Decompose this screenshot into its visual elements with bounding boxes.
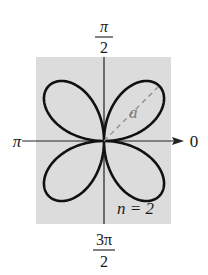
n-value-text: n = 2	[117, 199, 154, 218]
polar-rose-figure: a n = 2 π 2 3π 2 π 0	[0, 0, 208, 275]
top-label-numerator: π	[100, 18, 109, 35]
right-label: 0	[190, 132, 199, 151]
bottom-label-denominator: 2	[100, 253, 108, 270]
top-label-denominator: 2	[100, 39, 108, 56]
n-value-label: n = 2	[117, 199, 154, 218]
polar-graph: a n = 2 π 2 3π 2 π 0	[0, 0, 208, 275]
left-label: π	[13, 132, 22, 151]
petal-length-label: a	[129, 103, 138, 122]
bottom-label-numerator: 3π	[96, 231, 112, 248]
